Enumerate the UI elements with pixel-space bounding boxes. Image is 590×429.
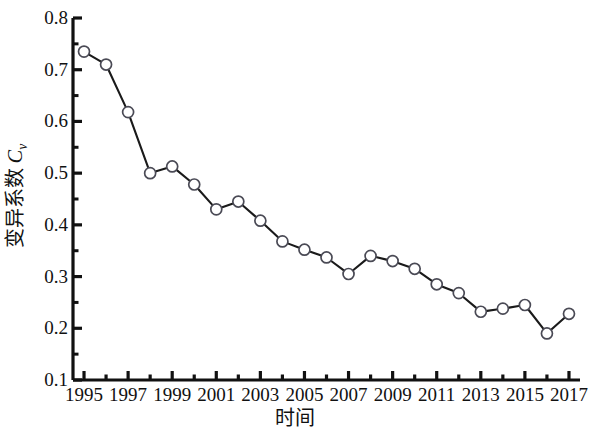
data-line-segment <box>288 244 298 248</box>
data-point-marker[interactable] <box>387 256 398 267</box>
data-line-segment <box>353 260 365 270</box>
data-marker-group <box>79 46 575 339</box>
data-point-marker[interactable] <box>563 308 574 319</box>
data-point-marker[interactable] <box>145 168 156 179</box>
data-point-marker[interactable] <box>453 288 464 299</box>
data-point-marker[interactable] <box>519 300 530 311</box>
data-point-marker[interactable] <box>101 59 112 70</box>
data-point-marker[interactable] <box>211 204 222 215</box>
data-point-marker[interactable] <box>431 279 442 290</box>
data-point-marker[interactable] <box>299 244 310 255</box>
plot-area <box>0 0 590 429</box>
data-point-marker[interactable] <box>167 161 178 172</box>
data-line-segment <box>109 70 126 106</box>
data-line-segment <box>156 168 166 171</box>
data-line-segment <box>310 252 320 256</box>
data-line-segment <box>177 170 189 180</box>
data-line-segment <box>332 261 344 270</box>
data-point-marker[interactable] <box>475 306 486 317</box>
data-point-marker[interactable] <box>233 196 244 207</box>
data-line-segment <box>509 306 519 308</box>
data-line-segment <box>265 225 278 237</box>
data-line-segment <box>198 189 212 204</box>
data-line-segment <box>130 118 148 167</box>
data-point-marker[interactable] <box>365 250 376 261</box>
data-point-marker[interactable] <box>343 268 354 279</box>
x-axis-title: 时间 <box>0 402 590 429</box>
data-line-segment <box>243 206 256 217</box>
data-line-segment <box>443 287 453 291</box>
data-line-segment <box>487 310 497 311</box>
data-line-segment <box>529 310 543 328</box>
data-point-marker[interactable] <box>189 179 200 190</box>
data-line-group <box>89 55 564 329</box>
data-point-marker[interactable] <box>79 46 90 57</box>
data-line-segment <box>222 204 232 208</box>
data-point-marker[interactable] <box>409 263 420 274</box>
data-point-marker[interactable] <box>255 215 266 226</box>
data-point-marker[interactable] <box>497 303 508 314</box>
data-line-segment <box>464 297 476 307</box>
data-line-segment <box>552 318 565 329</box>
data-line-segment <box>89 55 100 62</box>
data-point-marker[interactable] <box>541 328 552 339</box>
chart-container: 变异系数 Cv 0.10.20.30.40.50.60.70.8 1995199… <box>0 0 590 429</box>
data-point-marker[interactable] <box>321 252 332 263</box>
data-point-marker[interactable] <box>123 107 134 118</box>
data-point-marker[interactable] <box>277 236 288 247</box>
data-line-segment <box>399 263 409 267</box>
data-line-segment <box>377 257 387 259</box>
data-line-segment <box>420 272 432 280</box>
